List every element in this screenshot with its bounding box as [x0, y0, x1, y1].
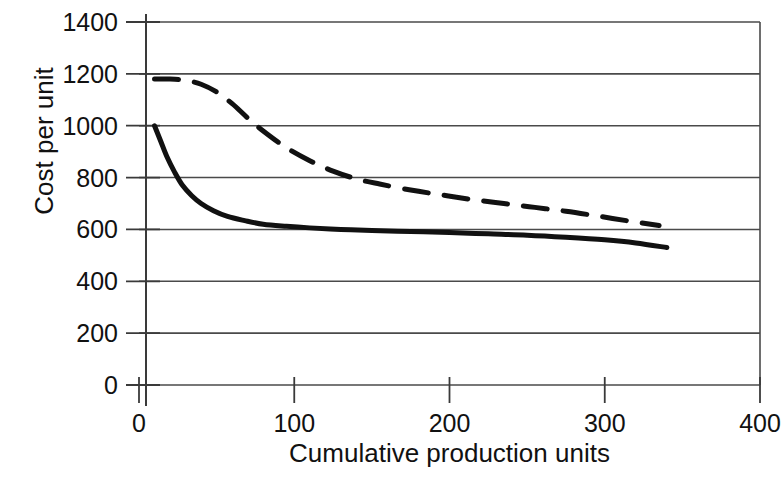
x-axis-title: Cumulative production units [139, 440, 760, 466]
x-tick-label: 300 [584, 411, 626, 436]
y-tick-label: 400 [0, 269, 118, 294]
x-tick-label: 200 [429, 411, 471, 436]
y-tick-label: 0 [0, 373, 118, 398]
y-tick-label: 800 [0, 165, 118, 190]
x-tick-label: 400 [739, 411, 781, 436]
y-tick-label: 1000 [0, 113, 118, 138]
x-tick-label: 100 [273, 411, 315, 436]
y-tick-label: 1400 [0, 10, 118, 35]
data-series-group [155, 79, 667, 248]
y-tick-marks-group [126, 22, 160, 385]
series-line-dashed [155, 79, 660, 226]
y-axis-title: Cost per unit [31, 11, 57, 271]
y-tick-label: 200 [0, 321, 118, 346]
x-tick-marks-group [139, 377, 760, 403]
y-tick-label: 600 [0, 217, 118, 242]
x-tick-label: 0 [132, 411, 146, 436]
gridlines-group [139, 22, 760, 385]
y-tick-label: 1200 [0, 61, 118, 86]
